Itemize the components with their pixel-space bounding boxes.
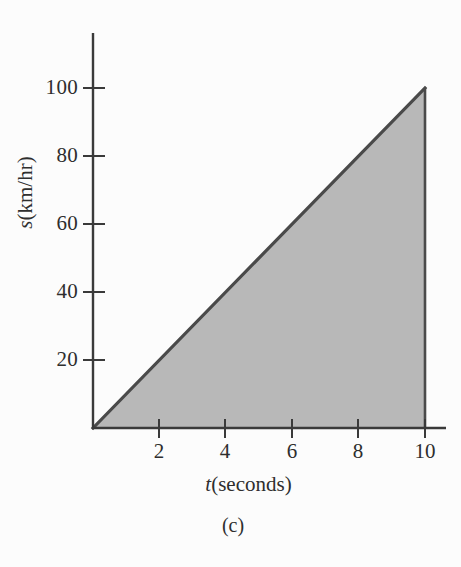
x-tick-label-slot-8: 8	[333, 441, 383, 467]
x-tick-label-6: 6	[267, 441, 317, 462]
y-axis-units: (km/hr)	[13, 156, 37, 220]
x-tick-label-slot-6: 6	[267, 441, 317, 467]
y-axis-variable: s	[13, 220, 37, 228]
x-tick-label-slot-4: 4	[200, 441, 250, 467]
figure-caption: (c)	[0, 515, 461, 535]
y-tick-label-20: 20	[56, 349, 78, 370]
y-tick-label-80: 80	[56, 145, 78, 166]
figure-container: 100 80 60 40 20 2 4 6 8 10 s(km/hr) t(se…	[0, 0, 461, 567]
x-tick-label-4: 4	[200, 441, 250, 462]
y-tick-label-60: 60	[56, 213, 78, 234]
y-axis-title: s(km/hr)	[15, 113, 36, 273]
x-tick-label-slot-2: 2	[134, 441, 184, 467]
x-tick-label-8: 8	[333, 441, 383, 462]
x-tick-label-slot-10: 10	[400, 441, 450, 467]
x-axis-title: t(seconds)	[0, 474, 461, 495]
x-tick-label-10: 10	[400, 441, 450, 462]
y-tick-label-100: 100	[46, 77, 78, 98]
x-tick-label-2: 2	[134, 441, 184, 462]
x-axis-units: (seconds)	[211, 472, 291, 496]
y-tick-label-40: 40	[56, 281, 78, 302]
